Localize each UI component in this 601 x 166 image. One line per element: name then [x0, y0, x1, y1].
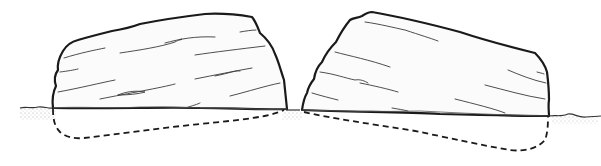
- boulders-diagram: [0, 0, 601, 166]
- right-boulder: [302, 12, 549, 116]
- right-boulder-buried-outline: [304, 112, 548, 151]
- left-boulder-buried-outline: [53, 109, 284, 138]
- ground-line-left: [20, 107, 53, 108]
- left-boulder: [53, 14, 287, 110]
